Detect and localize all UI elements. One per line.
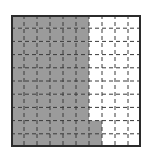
shaded-cell [76,55,89,69]
unshaded-cell [102,68,115,82]
shaded-cell [76,68,89,82]
unshaded-cell [102,55,115,69]
shaded-cell [50,28,63,42]
shaded-cell [50,107,63,121]
shaded-cell [76,15,89,29]
unshaded-cell [115,68,128,82]
shaded-cell [24,94,37,108]
unshaded-cell [89,55,102,69]
shaded-cell [37,41,50,55]
shaded-cell [63,55,76,69]
shaded-cell [37,121,50,135]
shaded-cell [37,107,50,121]
unshaded-cell [102,107,115,121]
shaded-cell [63,81,76,95]
shaded-cell [50,81,63,95]
shaded-cell [37,81,50,95]
shaded-cell [24,68,37,82]
unshaded-cell [115,55,128,69]
shaded-cell [50,41,63,55]
unshaded-cell [115,15,128,29]
shaded-cell [37,94,50,108]
shaded-cell [24,28,37,42]
unshaded-cell [102,94,115,108]
unshaded-cell [115,107,128,121]
unshaded-cell [102,28,115,42]
shaded-cell [50,55,63,69]
shaded-cell [37,68,50,82]
shaded-cell [76,81,89,95]
shaded-cell [76,107,89,121]
unshaded-cell [89,15,102,29]
canvas [0,0,145,155]
shaded-cell [24,41,37,55]
unshaded-cell [89,41,102,55]
shaded-cell [24,107,37,121]
shaded-cell [63,107,76,121]
unshaded-cell [102,121,115,135]
grid-svg [11,15,141,147]
shaded-cell [37,28,50,42]
shaded-cell [24,55,37,69]
unshaded-cell [89,68,102,82]
shaded-cell [76,28,89,42]
shaded-cell [37,15,50,29]
unshaded-cell [89,28,102,42]
shaded-cell [89,121,102,135]
unshaded-cell [102,15,115,29]
shaded-cell [24,15,37,29]
shaded-cell [37,55,50,69]
shaded-cell [63,15,76,29]
unshaded-cell [89,81,102,95]
shaded-cell [63,94,76,108]
shaded-cell [50,121,63,135]
shaded-cell [76,94,89,108]
unshaded-cell [115,28,128,42]
shaded-cell [63,121,76,135]
shaded-cell [63,68,76,82]
shaded-cell [76,41,89,55]
shaded-cell [24,121,37,135]
hundred-grid [11,15,141,147]
shaded-cell [50,15,63,29]
unshaded-cell [115,41,128,55]
unshaded-cell [102,81,115,95]
shaded-cell [50,68,63,82]
shaded-cell [24,81,37,95]
unshaded-cell [115,121,128,135]
unshaded-cell [115,81,128,95]
unshaded-cell [89,94,102,108]
shaded-cell [50,94,63,108]
unshaded-cell [89,107,102,121]
shaded-cell [76,121,89,135]
shaded-cell [63,28,76,42]
unshaded-cell [102,41,115,55]
unshaded-cell [115,94,128,108]
shaded-cell [63,41,76,55]
